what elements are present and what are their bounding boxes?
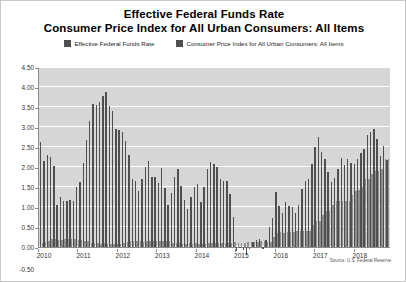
bar-cpi <box>184 200 185 247</box>
bar-cpi <box>50 157 51 247</box>
bar-cpi <box>132 179 133 247</box>
bar-cpi <box>207 169 208 247</box>
y-axis-tick <box>35 208 38 209</box>
bar-cpi <box>118 130 119 247</box>
bar-cpi <box>99 102 100 247</box>
bar-series-group <box>39 68 390 247</box>
bar-cpi <box>249 247 250 249</box>
legend-swatch-icon <box>64 40 71 47</box>
x-axis-tick <box>235 249 236 252</box>
bar-cpi <box>122 132 123 247</box>
x-axis-label: 2011 <box>63 252 103 259</box>
title-line-1: Effective Federal Funds Rate <box>1 7 406 21</box>
y-axis-tick <box>35 188 38 189</box>
y-axis-label: 1.00 <box>4 204 34 211</box>
bar-effr <box>388 159 389 247</box>
bar-cpi <box>102 96 103 247</box>
bar-cpi <box>262 247 263 249</box>
y-axis-tick <box>35 108 38 109</box>
legend-label-effr: Effective Federal Funds Rate <box>74 40 154 47</box>
bar-cpi <box>125 141 126 247</box>
y-axis-tick <box>35 228 38 229</box>
bar-cpi <box>115 129 116 247</box>
bar-cpi <box>213 164 214 247</box>
bar-cpi <box>243 247 244 250</box>
y-axis-tick <box>35 88 38 89</box>
bar-cpi <box>86 140 87 247</box>
bar-cpi <box>158 183 159 247</box>
x-axis-tick <box>77 249 78 252</box>
bar-cpi <box>161 168 162 247</box>
x-axis-tick <box>196 249 197 252</box>
x-axis-label: 2018 <box>340 252 380 259</box>
x-axis-label: 2010 <box>24 252 64 259</box>
bar-cpi <box>43 161 44 247</box>
chart-legend: Effective Federal Funds Rate Consumer Pr… <box>1 40 406 47</box>
bar-cpi <box>128 155 129 247</box>
y-axis-tick <box>35 68 38 69</box>
x-axis-tick <box>354 249 355 252</box>
plot-region <box>38 68 390 248</box>
bar-cpi <box>138 191 139 247</box>
bar-cpi <box>141 179 142 247</box>
bar-cpi <box>216 167 217 247</box>
gridline <box>39 66 390 67</box>
bar-cpi <box>151 177 152 247</box>
bar-cpi <box>53 166 54 247</box>
chart-title: Effective Federal Funds Rate Consumer Pr… <box>1 7 406 35</box>
bar-cpi <box>226 181 227 247</box>
bar-cpi <box>47 155 48 247</box>
bar-cpi <box>180 186 181 247</box>
legend-item-effr: Effective Federal Funds Rate <box>64 40 154 47</box>
x-axis-tick <box>156 249 157 252</box>
x-axis-label: 2016 <box>261 252 301 259</box>
plot-area <box>38 68 390 248</box>
y-axis-label: 4.50 <box>4 64 34 71</box>
bar-cpi <box>187 209 188 247</box>
y-axis-label: 0.50 <box>4 224 34 231</box>
y-axis-label: -0.50 <box>4 266 34 273</box>
bar-cpi <box>200 202 201 247</box>
bar-cpi <box>164 188 165 247</box>
x-axis-label: 2014 <box>182 252 222 259</box>
bar-cpi <box>197 184 198 247</box>
bar-cpi <box>210 162 211 247</box>
bar-cpi <box>135 181 136 247</box>
bar-group <box>386 68 389 247</box>
legend-item-cpi: Consumer Price Index for All Urban Consu… <box>176 40 343 47</box>
y-axis-label: 2.50 <box>4 144 34 151</box>
y-axis-tick <box>35 168 38 169</box>
bar-cpi <box>203 187 204 247</box>
bar-cpi <box>223 181 224 247</box>
x-axis-tick <box>38 249 39 252</box>
y-axis-label: 1.50 <box>4 184 34 191</box>
bar-cpi <box>109 106 110 247</box>
legend-swatch-icon <box>176 40 183 47</box>
chart-figure: Effective Federal Funds Rate Consumer Pr… <box>0 0 406 282</box>
bar-cpi <box>171 193 172 247</box>
bar-cpi <box>89 121 90 247</box>
bar-cpi <box>40 142 41 247</box>
x-axis-label: 2017 <box>300 252 340 259</box>
y-axis-label: 4.00 <box>4 84 34 91</box>
legend-label-cpi: Consumer Price Index for All Urban Consu… <box>186 40 343 47</box>
bar-cpi <box>83 163 84 247</box>
bar-cpi <box>229 194 230 247</box>
bar-cpi <box>105 92 106 247</box>
bar-cpi <box>76 187 77 247</box>
x-axis-tick <box>275 249 276 252</box>
bar-cpi <box>177 169 178 247</box>
y-axis-tick <box>35 128 38 129</box>
bar-cpi <box>154 177 155 247</box>
x-axis-label: 2012 <box>103 252 143 259</box>
bar-cpi <box>96 105 97 247</box>
title-line-2: Consumer Price Index for All Urban Consu… <box>1 21 406 35</box>
x-axis-label: 2013 <box>142 252 182 259</box>
y-axis-label: 3.00 <box>4 124 34 131</box>
bar-cpi <box>92 104 93 247</box>
y-axis-tick <box>35 148 38 149</box>
bar-cpi <box>79 182 80 247</box>
bar-cpi <box>145 167 146 247</box>
x-axis-tick <box>314 249 315 252</box>
y-axis-label: 3.50 <box>4 104 34 111</box>
